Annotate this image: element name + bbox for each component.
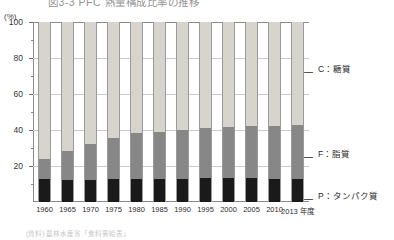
x-tick-label: 2005: [243, 205, 260, 214]
bar-segment-carbohydrate: [246, 22, 257, 126]
bar-segment-fat: [177, 130, 188, 179]
legend-leader-line-icon: [304, 67, 318, 73]
legend-leader-line-icon: [304, 194, 318, 200]
x-tick-label: 1960: [36, 205, 53, 214]
bar-segment-fat: [292, 125, 303, 179]
bar-1990: [176, 22, 189, 202]
legend-label: F：脂質: [318, 147, 350, 159]
x-tick-label: 1965: [59, 205, 76, 214]
bar-segment-fat: [85, 144, 96, 180]
bar-2013: [291, 22, 304, 202]
bar-1965: [61, 22, 74, 202]
bar-segment-fat: [131, 133, 142, 179]
bar-segment-fat: [39, 159, 50, 179]
bar-segment-protein: [39, 179, 50, 202]
x-tick-label: 1985: [151, 205, 168, 214]
y-tick-label: 40: [14, 125, 23, 135]
bar-segment-protein: [177, 179, 188, 202]
bar-segment-carbohydrate: [131, 22, 142, 133]
bar-segment-fat: [200, 128, 211, 178]
bar-segment-carbohydrate: [292, 22, 303, 125]
bar-2005: [245, 22, 258, 202]
bar-segment-fat: [246, 126, 257, 178]
x-tick-label: 2000: [220, 205, 237, 214]
x-axis-labels: 1960196519701975198019851990199520002005…: [33, 205, 323, 219]
bar-1975: [107, 22, 120, 202]
x-tick-label: 2013 年度: [281, 205, 314, 216]
bar-segment-protein: [292, 179, 303, 202]
bar-segment-carbohydrate: [269, 22, 280, 126]
bar-segment-protein: [223, 178, 234, 202]
bar-segment-protein: [200, 178, 211, 202]
bar-1985: [153, 22, 166, 202]
bar-segment-carbohydrate: [177, 22, 188, 130]
pfc-balance-figure: 図3-3 PFC 熱量構成比率の推移 (%) 10080604020 19601…: [0, 0, 394, 240]
bar-1970: [84, 22, 97, 202]
bar-segment-fat: [62, 151, 73, 180]
bar-segment-carbohydrate: [223, 22, 234, 127]
y-tick-label: 20: [14, 161, 23, 171]
bar-1995: [199, 22, 212, 202]
x-tick-label: 1990: [174, 205, 191, 214]
bar-segment-fat: [269, 126, 280, 178]
bar-1980: [130, 22, 143, 202]
x-tick-label: 1975: [105, 205, 122, 214]
bar-segment-protein: [154, 179, 165, 202]
bar-segment-fat: [154, 132, 165, 179]
bar-segment-protein: [108, 179, 119, 202]
bar-segment-protein: [269, 179, 280, 202]
bar-segment-carbohydrate: [200, 22, 211, 128]
source-note: (資料) 農林水産省「食料需給表」: [26, 228, 130, 238]
bar-segment-fat: [223, 127, 234, 178]
bar-segment-carbohydrate: [108, 22, 119, 138]
y-tick-label: 60: [14, 89, 23, 99]
plot-area: 10080604020: [33, 22, 309, 202]
figure-title: 図3-3 PFC 熱量構成比率の推移: [48, 0, 199, 9]
bar-series-layer: [33, 22, 309, 202]
bar-segment-protein: [85, 180, 96, 202]
bar-segment-protein: [246, 178, 257, 202]
bar-segment-protein: [131, 179, 142, 202]
y-tick-label: 80: [14, 53, 23, 63]
legend-label: P：タンパク質: [318, 189, 378, 201]
bar-1960: [38, 22, 51, 202]
x-tick-label: 1970: [82, 205, 99, 214]
bar-segment-carbohydrate: [39, 22, 50, 159]
bar-segment-protein: [62, 180, 73, 202]
x-tick-label: 1980: [128, 205, 145, 214]
bar-segment-carbohydrate: [62, 22, 73, 151]
legend-label: C：糖質: [318, 62, 351, 74]
x-tick-label: 1995: [197, 205, 214, 214]
bar-2010: [268, 22, 281, 202]
y-tick-label: 100: [9, 17, 23, 27]
bar-segment-carbohydrate: [154, 22, 165, 132]
bar-segment-fat: [108, 138, 119, 179]
bar-segment-carbohydrate: [85, 22, 96, 144]
bar-2000: [222, 22, 235, 202]
